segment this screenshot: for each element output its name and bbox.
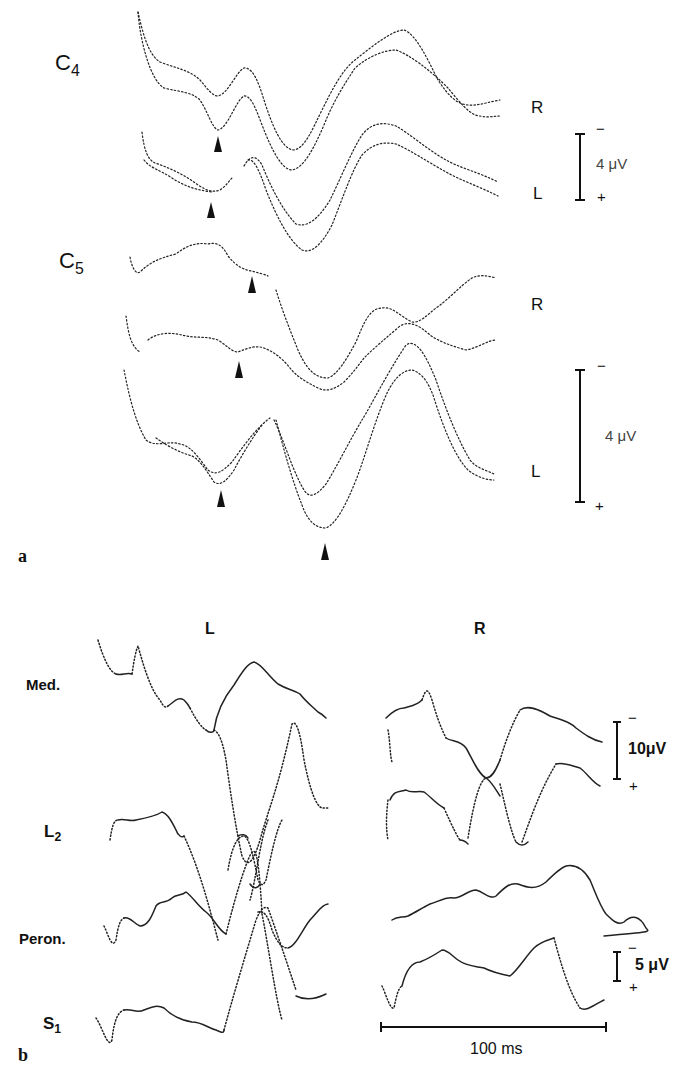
label-sub: 4 bbox=[71, 62, 80, 79]
trace-label-peron: Peron. bbox=[19, 930, 66, 947]
peak-markers bbox=[207, 136, 329, 560]
arrowhead-icon bbox=[321, 543, 329, 560]
scale-b1-minus: − bbox=[628, 709, 637, 726]
side-label-c4-left: L bbox=[533, 184, 542, 204]
label-sub: 5 bbox=[75, 260, 84, 277]
scale-bar-a2 bbox=[575, 370, 585, 502]
trace-label-c4: C4 bbox=[55, 50, 80, 80]
trace-b-right-l2 bbox=[387, 763, 601, 845]
scale-a1-value: 4 μV bbox=[596, 155, 627, 172]
side-label-c5-left: L bbox=[531, 462, 540, 482]
column-label-left: L bbox=[205, 620, 215, 638]
label-main: C bbox=[55, 50, 71, 75]
scale-a1-minus: − bbox=[596, 120, 605, 137]
label-sub: 2 bbox=[54, 830, 61, 844]
scale-a1-plus: + bbox=[597, 188, 606, 205]
trace-b-right-peron bbox=[392, 866, 648, 936]
scale-b2-minus: − bbox=[628, 939, 637, 956]
label-main: L bbox=[44, 822, 54, 841]
label-main: S bbox=[43, 1014, 54, 1033]
trace-label-l2: L2 bbox=[44, 822, 61, 844]
trace-c5-right bbox=[130, 243, 496, 378]
scale-bar-b1 bbox=[613, 722, 621, 779]
scale-a2-value: 4 μV bbox=[605, 427, 636, 444]
time-scale-bar bbox=[381, 1022, 606, 1032]
trace-c4-left bbox=[142, 124, 498, 251]
trace-c4-right bbox=[138, 12, 500, 170]
scale-a2-minus: − bbox=[597, 357, 606, 374]
panel-letter-a: a bbox=[18, 546, 27, 567]
side-label-c5-right: R bbox=[531, 295, 543, 315]
trace-label-s1: S1 bbox=[43, 1014, 61, 1036]
trace-b-left-med bbox=[98, 640, 328, 863]
side-label-c4-right: R bbox=[531, 98, 543, 118]
time-scale-value: 100 ms bbox=[470, 1040, 522, 1058]
trace-label-med: Med. bbox=[26, 676, 60, 693]
arrowhead-icon bbox=[235, 361, 243, 378]
label-main: C bbox=[59, 248, 75, 273]
arrowhead-icon bbox=[207, 202, 215, 218]
scale-a2-plus: + bbox=[595, 497, 604, 514]
scale-bar-b2 bbox=[613, 952, 621, 981]
scale-b1-value: 10μV bbox=[628, 740, 666, 758]
trace-b-right-s1 bbox=[382, 938, 604, 1009]
arrowhead-icon bbox=[217, 490, 225, 507]
trace-c5-left bbox=[124, 316, 496, 528]
scale-b1-plus: + bbox=[629, 777, 638, 794]
trace-b-left-peron bbox=[104, 851, 328, 1020]
scale-b2-plus: + bbox=[629, 978, 638, 995]
evoked-potential-figure bbox=[0, 0, 692, 1077]
arrowhead-icon bbox=[214, 136, 222, 152]
column-label-right: R bbox=[474, 620, 486, 638]
arrowhead-icon bbox=[248, 276, 256, 293]
scale-bar-a1 bbox=[575, 134, 585, 200]
label-sub: 1 bbox=[54, 1022, 61, 1036]
panel-letter-b: b bbox=[18, 1045, 28, 1066]
scale-b2-value: 5 μV bbox=[635, 956, 669, 974]
trace-label-c5: C5 bbox=[59, 248, 84, 278]
trace-b-left-s1 bbox=[96, 908, 326, 1043]
